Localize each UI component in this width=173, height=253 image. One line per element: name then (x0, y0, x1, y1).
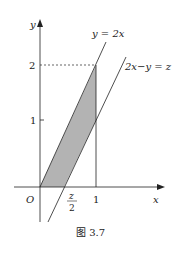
figure: y x O 2 1 1 z 2 y = 2x 2x−y = z 图 3.7 (0, 0, 173, 253)
origin-label: O (26, 194, 34, 205)
y-axis-label: y (29, 19, 36, 30)
x-axis-arrow-icon (157, 184, 165, 190)
x-axis-label: x (153, 194, 159, 205)
y-axis-arrow-icon (37, 19, 43, 27)
line-2x-y-z-label: 2x−y = z (124, 61, 172, 72)
half-z-denominator: 2 (69, 203, 75, 213)
tick-y-1-label: 1 (30, 115, 36, 126)
line-y-2x-label: y = 2x (91, 28, 125, 39)
line-2x-y-z (48, 57, 126, 222)
half-z-numerator: z (68, 191, 74, 201)
tick-y-2-label: 2 (29, 60, 35, 71)
figure-caption: 图 3.7 (76, 227, 105, 238)
tick-x-1-label: 1 (93, 194, 99, 205)
